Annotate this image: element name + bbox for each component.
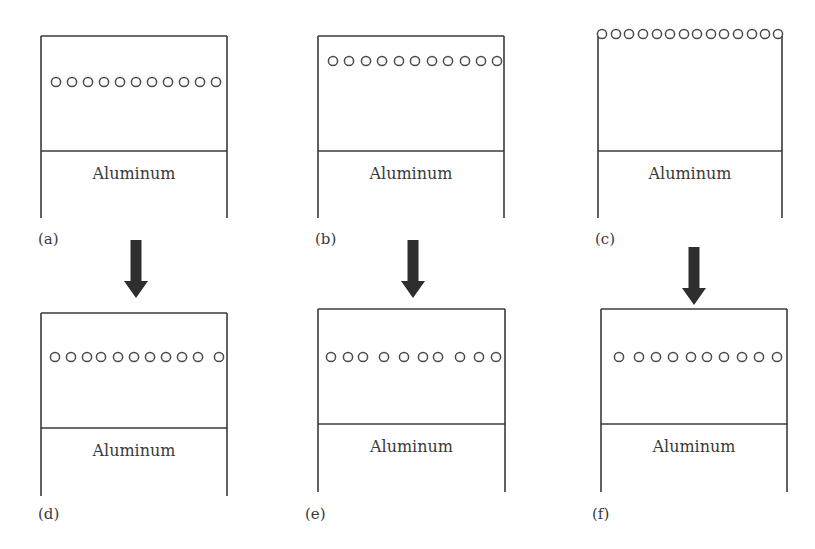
particle-circle-icon [706, 29, 715, 38]
particle-circle-icon [418, 352, 427, 361]
panel-caption-a: (a) [38, 230, 59, 248]
particle-circle-icon [760, 29, 769, 38]
particle-circle-icon [67, 77, 76, 86]
particle-circle-icon [692, 29, 701, 38]
panel-caption-e: (e) [305, 505, 326, 523]
panel-c [597, 29, 782, 218]
particle-circle-icon [668, 352, 677, 361]
panel-b [318, 36, 504, 218]
panel-caption-b: (b) [315, 230, 336, 248]
particle-circle-icon [747, 29, 756, 38]
particle-circle-icon [634, 352, 643, 361]
particle-circle-icon [394, 56, 403, 65]
down-arrow-icon [682, 247, 706, 305]
particle-circle-icon [131, 77, 140, 86]
particle-circle-icon [410, 56, 419, 65]
particle-circle-icon [50, 352, 59, 361]
particle-circle-icon [82, 352, 91, 361]
down-arrow-icon [124, 240, 148, 298]
down-arrow-icon [401, 240, 425, 298]
material-label-f: Aluminum [601, 437, 787, 456]
particle-circle-icon [361, 56, 370, 65]
particle-circle-icon [379, 352, 388, 361]
material-label-e: Aluminum [318, 437, 505, 456]
particle-circle-icon [433, 352, 442, 361]
particle-circle-icon [476, 56, 485, 65]
particle-circle-icon [754, 352, 763, 361]
particle-circle-icon [651, 352, 660, 361]
particle-circle-icon [145, 352, 154, 361]
particle-circle-icon [177, 352, 186, 361]
particle-circle-icon [343, 352, 352, 361]
panel-f [601, 309, 787, 492]
panel-e [318, 309, 505, 492]
particle-circle-icon [665, 29, 674, 38]
panel-d [41, 313, 227, 496]
particle-circle-icon [597, 29, 606, 38]
particle-circle-icon [737, 352, 746, 361]
figure-canvas [0, 0, 815, 549]
particle-circle-icon [455, 352, 464, 361]
particle-circle-icon [773, 29, 782, 38]
material-label-d: Aluminum [41, 441, 227, 460]
particle-circle-icon [344, 56, 353, 65]
particle-circle-icon [129, 352, 138, 361]
particle-circle-icon [211, 77, 220, 86]
particle-circle-icon [624, 29, 633, 38]
particle-circle-icon [611, 29, 620, 38]
particle-circle-icon [66, 352, 75, 361]
particle-circle-icon [686, 352, 695, 361]
particle-circle-icon [492, 56, 501, 65]
particle-circle-icon [443, 56, 452, 65]
particle-circle-icon [113, 352, 122, 361]
panel-caption-f: (f) [592, 505, 609, 523]
particle-circle-icon [51, 77, 60, 86]
particle-circle-icon [719, 29, 728, 38]
panel-a [41, 36, 227, 218]
particle-circle-icon [638, 29, 647, 38]
particle-circle-icon [115, 77, 124, 86]
particle-circle-icon [474, 352, 483, 361]
particle-circle-icon [719, 352, 728, 361]
panel-caption-c: (c) [595, 230, 615, 248]
particle-circle-icon [195, 77, 204, 86]
particle-circle-icon [328, 56, 337, 65]
particle-circle-icon [161, 352, 170, 361]
material-label-b: Aluminum [318, 164, 504, 183]
particle-circle-icon [614, 352, 623, 361]
panel-caption-d: (d) [38, 505, 59, 523]
particle-circle-icon [772, 352, 781, 361]
particle-circle-icon [679, 29, 688, 38]
particle-circle-icon [179, 77, 188, 86]
particle-circle-icon [733, 29, 742, 38]
particle-circle-icon [460, 56, 469, 65]
material-label-a: Aluminum [41, 164, 227, 183]
particle-circle-icon [326, 352, 335, 361]
particle-circle-icon [399, 352, 408, 361]
particle-circle-icon [83, 77, 92, 86]
particle-circle-icon [491, 352, 500, 361]
particle-circle-icon [99, 77, 108, 86]
particle-circle-icon [147, 77, 156, 86]
particle-circle-icon [702, 352, 711, 361]
particle-circle-icon [163, 77, 172, 86]
particle-circle-icon [652, 29, 661, 38]
material-label-c: Aluminum [598, 164, 782, 183]
particle-circle-icon [358, 352, 367, 361]
particle-circle-icon [214, 352, 223, 361]
particle-circle-icon [377, 56, 386, 65]
particle-circle-icon [427, 56, 436, 65]
particle-circle-icon [96, 352, 105, 361]
particle-circle-icon [193, 352, 202, 361]
